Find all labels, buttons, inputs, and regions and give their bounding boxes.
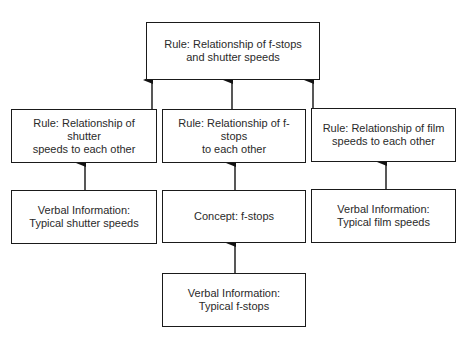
node-concept-fstops: Concept: f-stops xyxy=(162,190,306,243)
node-text-line: Concept: f-stops xyxy=(194,210,274,223)
node-verbal-shutter: Verbal Information: Typical shutter spee… xyxy=(11,190,157,244)
node-text-line: to each other xyxy=(169,143,299,156)
node-text-line: and shutter speeds xyxy=(164,51,302,64)
node-text-line: Rule: Relationship of f-stops xyxy=(164,38,302,51)
node-rule-shutter: Rule: Relationship of shutter speeds to … xyxy=(11,109,157,163)
node-text-line: Typical shutter speeds xyxy=(29,217,138,230)
node-text-line: Rule: Relationship of film xyxy=(323,122,445,135)
node-rule-film: Rule: Relationship of film speeds to eac… xyxy=(311,108,456,162)
node-rule-fstops: Rule: Relationship of f-stops to each ot… xyxy=(162,109,306,163)
node-text-line: Rule: Relationship of f-stops xyxy=(169,117,299,143)
node-top-rule: Rule: Relationship of f-stops and shutte… xyxy=(146,22,320,80)
node-text-line: Verbal Information: xyxy=(188,287,280,300)
node-text-line: speeds to each other xyxy=(18,143,150,156)
node-text-line: Verbal Information: xyxy=(29,204,138,217)
node-text-line: Typical film speeds xyxy=(337,216,430,229)
node-text-line: Rule: Relationship of shutter xyxy=(18,117,150,143)
node-text-line: Typical f-stops xyxy=(188,300,280,313)
node-text-line: speeds to each other xyxy=(323,135,445,148)
node-verbal-film: Verbal Information: Typical film speeds xyxy=(311,189,456,243)
node-verbal-fstops: Verbal Information: Typical f-stops xyxy=(162,273,306,327)
node-text-line: Verbal Information: xyxy=(337,203,430,216)
